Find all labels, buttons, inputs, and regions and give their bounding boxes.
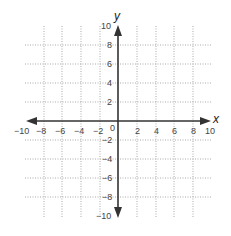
- x-tick-label: −6: [55, 127, 65, 136]
- x-axis-right-arrow-icon: [200, 117, 211, 125]
- y-tick-label: −6: [102, 174, 112, 183]
- y-tick-label: −4: [102, 155, 112, 164]
- x-tick-label: −8: [36, 127, 46, 136]
- y-tick-label: −8: [102, 193, 112, 202]
- y-axis-down-arrow-icon: [114, 207, 122, 218]
- origin-label: 0: [110, 124, 115, 133]
- x-axis-label: x: [213, 113, 219, 125]
- y-tick-label: 8: [107, 41, 112, 50]
- coordinate-plane: [0, 0, 231, 236]
- x-tick-label: −10: [14, 127, 29, 136]
- x-tick-label: 2: [135, 127, 140, 136]
- x-tick-label: 4: [154, 127, 159, 136]
- y-tick-label: 10: [101, 22, 111, 31]
- y-tick-label: −2: [102, 136, 112, 145]
- y-tick-label: 6: [107, 60, 112, 69]
- x-tick-label: −4: [74, 127, 84, 136]
- y-axis-label: y: [114, 10, 120, 22]
- x-tick-label: 10: [205, 127, 215, 136]
- x-tick-label: 8: [191, 127, 196, 136]
- y-axis-up-arrow-icon: [114, 25, 122, 36]
- y-tick-label: 2: [107, 98, 112, 107]
- y-tick-label: −10: [96, 212, 111, 221]
- x-axis-left-arrow-icon: [26, 117, 37, 125]
- x-tick-label: 6: [172, 127, 177, 136]
- y-tick-label: 4: [107, 79, 112, 88]
